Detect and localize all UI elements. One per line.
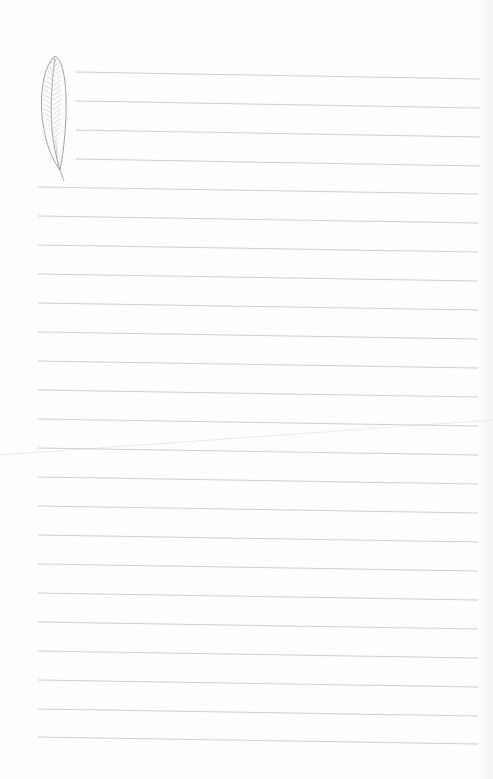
ruled-line [38,448,478,455]
feather-icon [42,56,67,181]
ruled-line [38,709,478,716]
ruled-line [38,535,478,542]
ruled-line [38,187,478,194]
ruled-line [38,506,478,513]
ruled-line [38,245,478,252]
full-ruled-lines [38,187,478,744]
lined-paper-page [0,0,493,779]
ruled-line [38,564,478,571]
ruled-line [38,680,478,687]
ruled-line [38,622,478,629]
ruled-line [38,303,478,310]
ruled-line [38,332,478,339]
ruled-line [76,72,480,79]
ruled-line [76,159,480,166]
ruled-line [38,651,478,658]
ruled-line [38,216,478,223]
ruled-line [38,274,478,281]
ruled-lines [0,0,493,779]
ruled-line [38,419,478,426]
ruled-line [38,390,478,397]
ruled-line [38,361,478,368]
ruled-line [76,101,480,108]
short-ruled-lines [76,72,480,166]
ruled-line [38,737,478,744]
ruled-line [38,477,478,484]
ruled-line [38,593,478,600]
ruled-line [76,130,480,137]
